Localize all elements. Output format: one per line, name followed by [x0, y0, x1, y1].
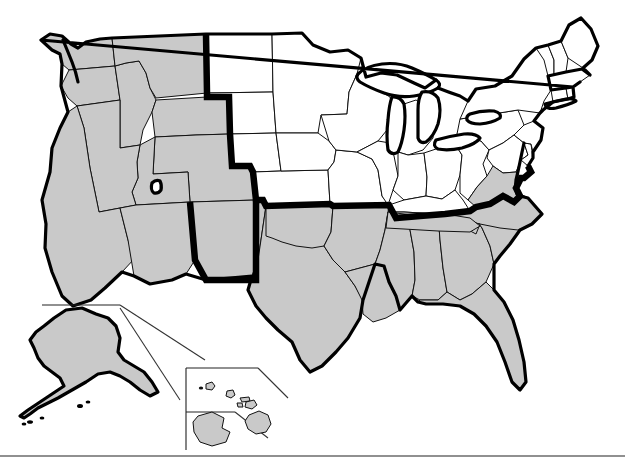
great-salt-lake	[151, 180, 161, 193]
island-lanai[interactable]	[237, 403, 243, 407]
state-indiana[interactable]	[393, 152, 427, 200]
us-regional-map: United States regional shading map Outli…	[0, 0, 643, 470]
state-oregon[interactable]	[61, 66, 120, 106]
lake-michigan	[387, 97, 405, 154]
lake-ontario	[467, 111, 501, 124]
state-north-dakota[interactable]	[206, 34, 273, 93]
map-canvas: United States regional shading map Outli…	[0, 0, 643, 470]
state-wyoming[interactable]	[152, 97, 230, 137]
island-niihau[interactable]	[199, 386, 203, 389]
